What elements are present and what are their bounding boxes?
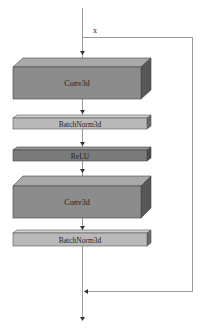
bn1-top-face [13,115,151,118]
bn2-top-face [13,230,151,233]
arrow-into-bn1-icon [80,110,85,114]
output-arrow-icon [80,317,85,321]
skip-merge-arrow-icon [84,289,88,294]
arrow-into-bn2-icon [80,226,85,230]
bn1-label: BatchNorm3d [59,120,102,129]
conv1-top-face [13,58,151,67]
arrow-into-relu-icon [80,142,85,146]
conv2-top-face [13,176,151,186]
layer-bn1: BatchNorm3d [13,115,151,129]
layer-conv2: Conv3d [13,176,151,218]
layer-conv1: Conv3d [13,58,151,99]
layer-relu: ReLU [13,147,151,161]
bn2-side-face [147,230,151,246]
conv1-label: Conv3d [64,79,89,88]
arrow-into-conv2-icon [80,169,85,173]
input-label: x [93,26,97,35]
bn2-label: BatchNorm3d [59,236,102,245]
residual-block-diagram: x Conv3d BatchNorm3d ReLU Conv3d [0,0,201,333]
arrow-into-conv1-icon [80,51,85,55]
layer-bn2: BatchNorm3d [13,230,151,246]
relu-label: ReLU [71,152,90,161]
relu-top-face [13,147,151,150]
conv2-label: Conv3d [64,198,89,207]
